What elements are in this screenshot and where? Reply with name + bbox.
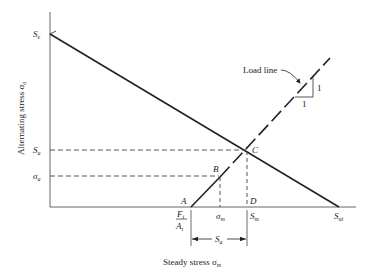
load-line-dashed [220, 58, 330, 177]
label-sm: Sm [250, 211, 260, 222]
load-line-pointer [281, 70, 300, 83]
point-c: C [252, 145, 259, 155]
goodman-line [50, 34, 339, 207]
label-fi: Fi [176, 209, 185, 220]
label-sut: Sut [334, 211, 344, 222]
slope-run: 1 [302, 99, 307, 109]
point-b: B [213, 164, 219, 174]
dimension-label-sa: Sa [215, 234, 223, 245]
label-sigma-m: σm [216, 211, 225, 222]
load-line-solid [191, 177, 220, 207]
point-d: D [249, 196, 257, 206]
se-tick [50, 31, 56, 34]
label-sa: Sa [33, 145, 41, 156]
slope-rise: 1 [317, 83, 322, 93]
label-ai: At [175, 221, 184, 232]
diagram-canvas: Se Sa σa Alternating stress σa A B C D F… [0, 0, 370, 272]
label-se: Se [33, 29, 41, 40]
point-a: A [180, 196, 187, 206]
load-line-label: Load line [243, 65, 277, 75]
x-axis-title: Steady stress σm [163, 257, 222, 268]
y-axis-title: Alternating stress σa [16, 82, 27, 155]
label-sigma-a: σa [33, 171, 40, 182]
